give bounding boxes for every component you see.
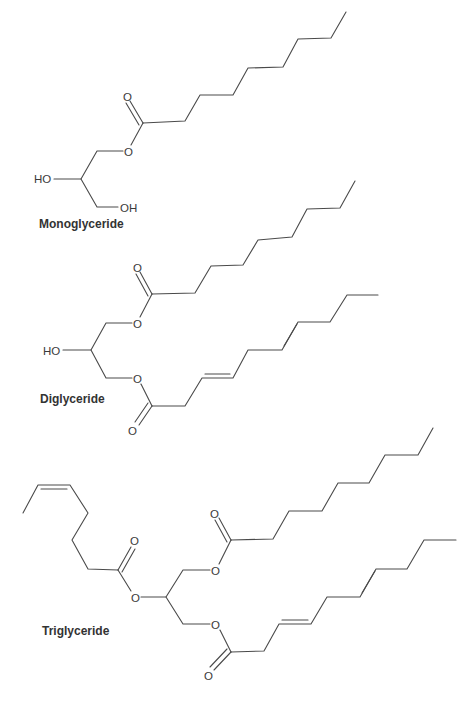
diglyceride-glycerol-backbone — [91, 323, 132, 378]
triglyceride-structure: O O O O O O Triglyceride — [23, 428, 456, 682]
monoglyceride-ester-oxygen: O — [124, 146, 133, 158]
diglyceride-top-carbonyl-oxygen: O — [133, 262, 142, 274]
triglyceride-bottom-ester-oxygen: O — [211, 619, 220, 631]
triglyceride-bottom-carbonyl-bond — [214, 652, 231, 670]
triglyceride-bottom-acyl-chain — [231, 540, 456, 652]
diglyceride-bottom-carbonyl-oxygen: O — [128, 425, 137, 437]
diglyceride-top-acyl-chain — [152, 181, 355, 294]
triglyceride-glycerol-backbone — [166, 570, 210, 624]
triglyceride-label: Triglyceride — [42, 624, 110, 638]
triglyceride-left-carbonyl-oxygen: O — [130, 535, 139, 547]
diglyceride-label: Diglyceride — [40, 392, 105, 406]
glyceride-structures-diagram: O O HO OH Monoglyceride O O HO O O — [0, 0, 474, 702]
monoglyceride-carbonyl-oxygen: O — [123, 91, 132, 103]
triglyceride-top-acyl-chain — [231, 428, 433, 540]
monoglyceride-acyl-chain — [143, 12, 346, 123]
diglyceride-bottom-acyl-chain — [152, 295, 378, 406]
diglyceride-double-bond-2 — [284, 324, 297, 346]
triglyceride-bottom-carbonyl-oxygen: O — [204, 670, 213, 682]
diglyceride-bottom-ester-oxygen: O — [133, 373, 142, 385]
triglyceride-double-bond-2 — [362, 571, 375, 593]
monoglyceride-hydroxyl-oh: OH — [120, 202, 137, 214]
diglyceride-top-ester-oxygen: O — [133, 318, 142, 330]
triglyceride-top-carbonyl-oxygen: O — [210, 508, 219, 520]
triglyceride-top-ester-oxygen: O — [211, 565, 220, 577]
monoglyceride-glycerol-backbone — [81, 151, 123, 207]
diglyceride-top-carbonyl-bond — [140, 272, 152, 294]
monoglyceride-label: Monoglyceride — [39, 217, 124, 231]
diglyceride-hydroxyl: HO — [43, 345, 60, 357]
monoglyceride-structure: O O HO OH Monoglyceride — [34, 12, 346, 231]
triglyceride-left-ester-oxygen: O — [131, 592, 140, 604]
diglyceride-bottom-carbonyl-bond — [139, 406, 152, 425]
triglyceride-top-carbonyl-bond — [219, 518, 231, 540]
monoglyceride-hydroxyl-ho: HO — [34, 173, 51, 185]
triglyceride-left-acyl-chain — [23, 485, 118, 570]
